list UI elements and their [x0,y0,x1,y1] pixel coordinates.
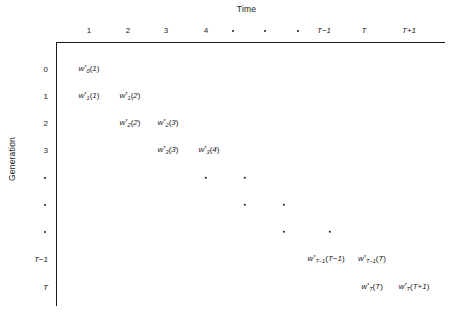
diagonal-continuation-dot [329,231,331,233]
subscript-generation: T−1 [315,258,325,264]
subscript-generation: T−1 [366,258,376,264]
paren-close: ) [383,254,386,263]
generation-time-diagram: Time Generation 1234T−1TT+1 0123T−1T w*0… [0,0,453,313]
paren-close: ) [138,91,141,100]
value-function-label: w*1(2) [120,91,141,101]
value-function-label: w*3(4) [199,145,220,155]
column-header: 1 [87,26,91,35]
paren-close: ) [176,145,179,154]
paren-close: ) [97,64,100,73]
value-function-label: w*2(2) [120,118,141,128]
argument-time: T−1 [328,254,342,263]
row-header-dot [44,204,46,206]
argument-time: T+1 [413,282,427,291]
paren-close: ) [176,118,179,127]
row-header: T−1 [22,255,48,264]
value-function-label: w*0(1) [79,64,100,74]
diagonal-continuation-dot [244,204,246,206]
x-axis-title-text: Time [237,4,256,14]
paren-close: ) [138,118,141,127]
value-function-label: w*T−1(T) [358,254,386,264]
value-function-label: w*1(1) [79,91,100,101]
value-function-label: w*3(3) [158,145,179,155]
column-header-dot [264,30,266,32]
row-header: 3 [22,146,48,155]
row-header: T [22,283,48,292]
paren-close: ) [427,282,430,291]
column-header: T [362,26,367,35]
column-header: 2 [126,26,130,35]
row-header-dot [44,231,46,233]
x-axis-title: Time [0,4,453,14]
diagonal-continuation-dot [283,231,285,233]
column-header-dot [297,30,299,32]
row-header: 0 [22,65,48,74]
value-function-label: w*T−1(T−1) [307,254,344,264]
value-function-label: w*T(T+1) [399,282,430,292]
vertical-axis-line [56,42,57,306]
row-header: 2 [22,119,48,128]
paren-close: ) [97,91,100,100]
value-function-label: w*2(3) [158,118,179,128]
column-header-dot [232,30,234,32]
paren-close: ) [342,254,345,263]
diagonal-continuation-dot [283,204,285,206]
column-header: T−1 [317,26,331,35]
row-header-dot [44,177,46,179]
paren-close: ) [217,145,220,154]
y-axis-title: Generation [7,119,17,199]
value-function-label: w*T(T) [361,282,383,292]
paren-close: ) [380,282,383,291]
diagonal-continuation-dot [244,177,246,179]
column-header: T+1 [402,26,416,35]
column-header: 4 [204,26,208,35]
row-header: 1 [22,92,48,101]
column-header: 3 [164,26,168,35]
horizontal-axis-line [56,42,445,43]
diagonal-continuation-dot [205,177,207,179]
